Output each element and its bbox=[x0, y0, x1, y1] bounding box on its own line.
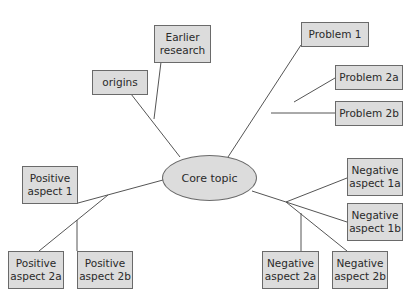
node-positive-aspect-2a[interactable]: Positive aspect 2a bbox=[8, 251, 64, 289]
node-origins[interactable]: origins bbox=[92, 70, 148, 95]
node-problem-1[interactable]: Problem 1 bbox=[301, 22, 369, 47]
node-positive-aspect-2b[interactable]: Positive aspect 2b bbox=[77, 251, 133, 289]
node-positive-aspect-1[interactable]: Positive aspect 1 bbox=[22, 166, 78, 204]
node-earlier-research[interactable]: Earlier research bbox=[154, 25, 211, 63]
node-negative-aspect-1b[interactable]: Negative aspect 1b bbox=[347, 203, 403, 241]
node-problem-2b[interactable]: Problem 2b bbox=[335, 101, 403, 126]
mind-map-diagram: Core topic origins Earlier research Prob… bbox=[0, 0, 415, 300]
node-negative-aspect-1a[interactable]: Negative aspect 1a bbox=[347, 158, 403, 196]
node-problem-2a[interactable]: Problem 2a bbox=[335, 65, 403, 90]
node-negative-aspect-2b[interactable]: Negative aspect 2b bbox=[332, 251, 388, 289]
core-topic-node[interactable]: Core topic bbox=[162, 155, 257, 201]
node-negative-aspect-2a[interactable]: Negative aspect 2a bbox=[262, 251, 319, 289]
